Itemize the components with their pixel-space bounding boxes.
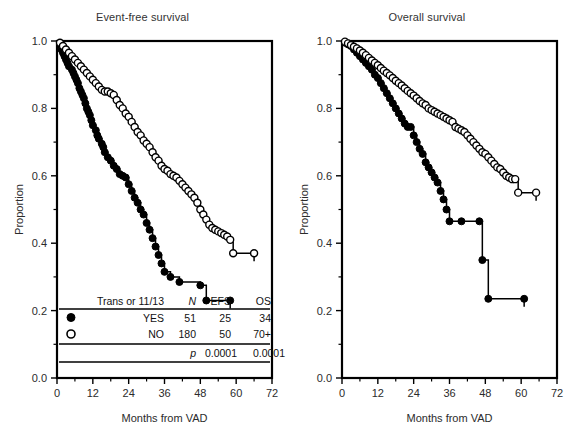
censor-marker-filled [128, 187, 135, 194]
censor-marker-filled [197, 282, 204, 289]
x-tick-label: 12 [372, 387, 384, 399]
censor-marker-filled [407, 123, 414, 130]
x-tick-label: 24 [123, 387, 135, 399]
censor-marker-filled [125, 181, 132, 188]
y-axis-label: Proportion [13, 184, 25, 235]
legend-header-efs: EFS [211, 295, 231, 307]
censor-marker-filled [149, 235, 156, 242]
y-tick-label: 0.2 [317, 305, 332, 317]
censor-marker-filled [440, 196, 447, 203]
legend-pvalue-efs: 0.0001 [205, 347, 237, 359]
legend-row-os: 34 [259, 312, 271, 324]
censor-marker-filled [167, 273, 174, 280]
plot-frame [57, 41, 272, 378]
y-tick-label: 0.6 [317, 170, 332, 182]
y-tick-label: 0.4 [317, 237, 332, 249]
plot-area-os: 01224364860720.00.20.40.60.81.0Months fr… [295, 0, 575, 427]
y-tick-label: 0.6 [32, 170, 47, 182]
y-tick-label: 0.8 [317, 102, 332, 114]
legend-pvalue-os: 0.0001 [253, 347, 285, 359]
censor-marker-open [512, 176, 519, 183]
panel-overall-survival: Overall survival 01224364860720.00.20.40… [295, 0, 575, 427]
legend-pvalue-label: p [189, 347, 196, 359]
censor-marker-filled [521, 295, 528, 302]
censor-marker-filled [479, 257, 486, 264]
censor-marker-filled [476, 218, 483, 225]
y-tick-label: 0.8 [32, 102, 47, 114]
y-tick-label: 1.0 [317, 35, 332, 47]
censor-marker-filled [458, 218, 465, 225]
censor-marker-filled [446, 218, 453, 225]
censor-marker-filled [158, 260, 165, 267]
legend-row-group: NO [148, 328, 164, 340]
x-axis-label: Months from VAD [122, 412, 208, 424]
legend-header-os: OS [256, 295, 271, 307]
legend-row-n: 180 [178, 328, 196, 340]
censor-marker-filled [410, 132, 417, 139]
x-tick-label: 0 [339, 387, 345, 399]
censor-marker-filled [419, 150, 426, 157]
censor-marker-filled [437, 187, 444, 194]
legend-marker-filled [67, 314, 75, 322]
censor-marker-filled [140, 211, 147, 218]
censor-marker-open [251, 250, 258, 257]
censor-marker-filled [176, 278, 183, 285]
legend-header-group: Trans or 11/13 [97, 295, 164, 307]
y-tick-label: 0.0 [32, 372, 47, 384]
censor-marker-open [230, 250, 237, 257]
censor-marker-open [227, 236, 234, 243]
efs-svg: 01224364860720.00.20.40.60.81.0Months fr… [0, 0, 295, 427]
censor-marker-filled [434, 179, 441, 186]
x-tick-label: 60 [230, 387, 242, 399]
survival-curve [57, 41, 230, 300]
x-tick-label: 0 [54, 387, 60, 399]
os-svg: 01224364860720.00.20.40.60.81.0Months fr… [295, 0, 575, 427]
legend-row-group: YES [143, 312, 164, 324]
x-tick-label: 60 [515, 387, 527, 399]
censor-marker-filled [134, 199, 141, 206]
legend-row-efs: 50 [219, 328, 231, 340]
legend-row-n: 51 [184, 312, 196, 324]
censor-marker-filled [203, 297, 210, 304]
legend-table: Trans or 11/13NEFSOSYES512534NO1805070+p… [59, 295, 285, 362]
legend-marker-open [67, 330, 75, 338]
x-tick-label: 12 [87, 387, 99, 399]
x-axis-label: Months from VAD [407, 412, 493, 424]
legend-header-n: N [188, 295, 196, 307]
x-tick-label: 36 [158, 387, 170, 399]
censor-marker-filled [161, 268, 168, 275]
censor-marker-filled [122, 174, 129, 181]
plot-area-efs: 01224364860720.00.20.40.60.81.0Months fr… [0, 0, 295, 427]
y-tick-label: 0.0 [317, 372, 332, 384]
censor-marker-open [515, 189, 522, 196]
y-tick-label: 0.4 [32, 237, 47, 249]
censor-marker-filled [443, 206, 450, 213]
y-tick-label: 0.2 [32, 305, 47, 317]
x-tick-label: 48 [194, 387, 206, 399]
censor-marker-open [194, 199, 201, 206]
x-tick-label: 72 [551, 387, 563, 399]
survival-figure: Event-free survival 01224364860720.00.20… [0, 0, 575, 427]
censor-marker-filled [146, 226, 153, 233]
panel-event-free-survival: Event-free survival 01224364860720.00.20… [0, 0, 295, 427]
legend-row-os: 70+ [253, 328, 271, 340]
censor-marker-filled [152, 243, 159, 250]
legend-row-efs: 25 [219, 312, 231, 324]
censor-marker-filled [413, 139, 420, 146]
x-tick-label: 72 [266, 387, 278, 399]
x-tick-label: 24 [408, 387, 420, 399]
censor-marker-filled [485, 295, 492, 302]
x-tick-label: 36 [443, 387, 455, 399]
x-tick-label: 48 [479, 387, 491, 399]
censor-marker-filled [143, 219, 150, 226]
y-axis-label: Proportion [298, 184, 310, 235]
censor-marker-open [533, 189, 540, 196]
y-tick-label: 1.0 [32, 35, 47, 47]
censor-marker-filled [155, 251, 162, 258]
